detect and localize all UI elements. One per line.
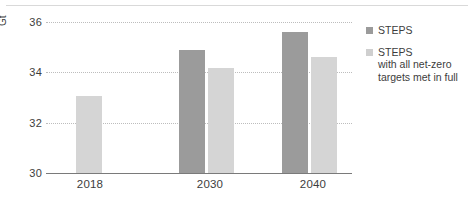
legend-item-steps-netzero[interactable]: STEPS with all net-zero targets met in f… (366, 46, 471, 84)
bar-2040-steps (282, 32, 308, 173)
x-tick-2030: 2030 (180, 178, 240, 190)
gridline-36 (46, 22, 352, 23)
y-tick-34: 34 (2, 67, 42, 78)
y-tick-36: 36 (2, 17, 42, 28)
chart-figure: Gt 36 34 32 30 2018 2030 2040 STEPS STEP… (0, 0, 473, 215)
legend-label-steps: STEPS (378, 24, 412, 37)
x-axis-line (46, 173, 352, 174)
legend-swatch-icon-steps-netzero (366, 49, 373, 56)
legend-item-steps[interactable]: STEPS (366, 24, 471, 37)
bar-2018-steps-netzero (76, 96, 102, 173)
bar-2030-steps-netzero (208, 68, 234, 173)
plot-area (46, 22, 352, 173)
y-axis-ticks: 36 34 32 30 (0, 22, 42, 173)
x-tick-2040: 2040 (283, 178, 343, 190)
y-tick-32: 32 (2, 118, 42, 129)
bar-2030-steps (179, 50, 205, 173)
legend-swatch-icon-steps (366, 27, 373, 34)
x-tick-2018: 2018 (60, 178, 120, 190)
bar-2040-steps-netzero (311, 57, 337, 173)
chart-legend: STEPS STEPS with all net-zero targets me… (366, 24, 471, 92)
legend-label-steps-netzero: STEPS with all net-zero targets met in f… (378, 46, 458, 84)
y-tick-30: 30 (2, 168, 42, 179)
top-divider (6, 5, 468, 6)
